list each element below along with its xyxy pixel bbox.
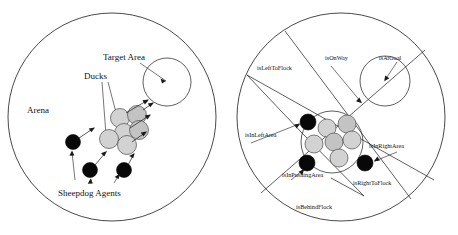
arrowhead-is-on-way [356,98,362,104]
leader-line-is-on-way [331,66,361,102]
duck-r-4 [325,133,343,151]
duck-r-2 [338,115,356,133]
sheepdog-agent-r-3 [357,155,373,171]
label-is-at-goal: isAtGoal [379,54,402,61]
duck-r-6 [330,149,348,167]
label-is-left-to-flock: isLeftToFlock [257,64,293,71]
arrowhead-agent-1 [89,127,95,132]
label-target-area: Target Area [103,52,145,62]
duck-r-5 [343,131,361,149]
label-arena: Arena [27,105,49,115]
state-regions-svg: isLeftToFlock isOnWay isAtGoal isInLeftA… [229,0,458,235]
arrowhead-is-at-goal [384,76,389,82]
label-is-on-way: isOnWay [325,54,349,61]
arrowhead-agent-2 [101,151,107,156]
label-sheepdog-agents: Sheepdog Agents [58,188,121,198]
arrowhead-duck-2 [148,102,154,107]
panel-state-regions: isLeftToFlock isOnWay isAtGoal isInLeftA… [229,0,458,235]
label-is-in-left-area: isInLeftArea [245,131,277,138]
label-is-behind-flock: isBehindFlock [296,203,333,210]
goal-area-circle [360,56,410,106]
sheepdog-agent-r-2 [299,155,315,171]
arena-overview-svg: Arena Ducks Target Area Sheepdog Agents [0,0,229,235]
arrowhead-is-in-right-area [374,157,380,162]
region-line-left-wedge [247,75,301,132]
arrowhead-leader-agent-3 [115,174,120,179]
label-is-in-right-area: isInRightArea [369,142,404,149]
arrowhead-leader-agent-2 [88,179,93,184]
label-is-in-pushing-area: isInPushingArea [282,171,323,178]
duck-5 [100,130,119,149]
target-area-circle [143,58,191,106]
sheepdog-agent-r-1 [300,114,316,130]
duck-r-3 [305,135,323,153]
leader-line-agent-1 [72,152,75,180]
label-ducks: Ducks [84,71,107,81]
panel-arena-overview: Arena Ducks Target Area Sheepdog Agents [0,0,229,235]
leader-line-target-area [140,63,166,81]
label-is-right-to-flock: isRightToFlock [353,179,392,186]
duck-6 [118,136,137,155]
figure-root: Arena Ducks Target Area Sheepdog Agents [0,0,458,235]
leader-line-ducks-a [102,82,106,135]
sheepdog-agent-1 [66,135,81,150]
arrowhead-leader-agent-1 [69,151,74,156]
arrowhead-duck-1 [142,100,149,105]
